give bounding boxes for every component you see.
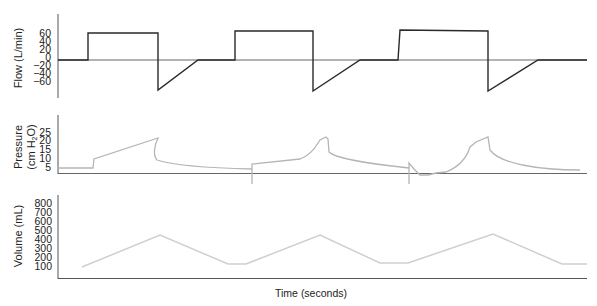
volume-y-ticks: 800 700 600 500 400 300 200 100 bbox=[34, 197, 52, 272]
tick: −60 bbox=[33, 75, 51, 87]
pressure-axis-unit-label: (cm H2O) bbox=[25, 124, 38, 169]
flow-panel: Flow (L/min) 60 40 20 0 −20 −40 −60 bbox=[12, 14, 587, 98]
volume-waveform bbox=[82, 234, 587, 267]
flow-y-ticks: 60 40 20 0 −20 −40 −60 bbox=[33, 27, 51, 87]
pressure-axis-label: Pressure bbox=[12, 125, 24, 169]
volume-axis-label: Volume (mL) bbox=[12, 205, 24, 267]
pressure-waveform bbox=[58, 137, 580, 184]
pressure-y-ticks: 25 20 15 10 5 bbox=[39, 126, 51, 173]
flow-axis-label: Flow (L/min) bbox=[12, 28, 24, 89]
tick: 100 bbox=[34, 260, 52, 272]
volume-panel: Volume (mL) 800 700 600 500 400 300 200 … bbox=[12, 195, 587, 279]
pressure-panel: Pressure (cm H2O) 25 20 15 10 5 bbox=[12, 115, 587, 184]
tick: 5 bbox=[45, 161, 51, 173]
time-axis-label: Time (seconds) bbox=[275, 287, 347, 299]
ventilator-waveform-chart: Flow (L/min) 60 40 20 0 −20 −40 −60 Pres… bbox=[0, 0, 597, 306]
